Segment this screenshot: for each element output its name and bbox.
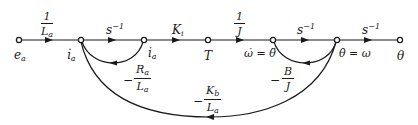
gain-1-over-j: 1 J [234,11,245,37]
gain-integrator-2: s−1 [297,23,315,36]
node-theta [397,37,402,42]
gain-kb-over-la: Kb La [204,85,221,115]
node-T [205,37,210,42]
gain-b-over-j: B J [282,66,294,92]
node-omega-dot [270,37,275,42]
node-ia-dot [78,37,83,42]
node-theta-dot [334,37,339,42]
feedback-b-j [274,42,336,63]
node-label-omega-dot: ω̇ = θ̈ [244,48,276,59]
sign-b-j: − [270,73,280,87]
node-label-T: T [204,50,212,62]
node-label-ea: ea [14,49,26,63]
gain-1-over-la: 1 La [41,11,53,39]
node-ia [141,37,146,42]
gain-ra-over-la: Ra La [134,64,151,94]
sign-kb-la: − [193,94,203,108]
feedback-ra-la [82,42,143,63]
node-label-ia: ia [148,47,157,61]
node-label-theta-dot: θ̇ = ω [339,48,371,59]
gain-ki: Ki [172,24,184,38]
signal-flow-graph: ea i̇a ia T ω̇ = θ̈ θ̇ = ω θ 1 La s−1 Ki… [0,0,418,125]
node-ea [16,37,21,42]
gain-integrator-1: s−1 [106,23,124,36]
node-label-ia-dot: i̇a [67,49,76,63]
sign-ra-la: − [123,73,133,87]
node-label-theta: θ [397,50,404,62]
gain-integrator-3: s−1 [362,23,380,36]
